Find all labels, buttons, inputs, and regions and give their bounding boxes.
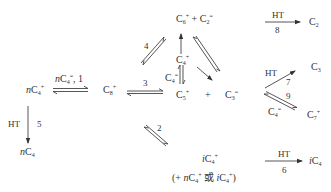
- species-C6-plus-C2: C6+ + C2=: [176, 14, 213, 24]
- species-C3-eq: C3=: [225, 90, 238, 100]
- species-C2: C2: [309, 17, 319, 27]
- species-iC4-plus: iC4+: [202, 154, 218, 164]
- plus-sign: +: [205, 90, 211, 100]
- reaction-7-label: 7: [286, 78, 291, 87]
- species-nC4: nC4: [20, 147, 35, 157]
- equilibrium-arrow-1: [53, 86, 88, 94]
- species-C3: C3: [311, 62, 321, 72]
- reaction-arrows: [0, 0, 331, 192]
- reaction-4-label: 4: [144, 42, 149, 51]
- species-iC4-note: (+ nC4+ 或 iC4+): [172, 173, 236, 183]
- reaction-5-label: 5: [37, 120, 42, 129]
- reaction-2-label: 2: [157, 124, 162, 133]
- reaction-8-label: 8: [275, 26, 280, 35]
- species-C5-plus: C5+: [176, 90, 189, 100]
- equilibrium-arrow-c4-c5: [178, 65, 185, 84]
- ht-label-6: HT: [278, 150, 290, 159]
- reaction-9-label: 9: [286, 92, 291, 101]
- equilibrium-arrow-c6-c3: [193, 36, 220, 72]
- ht-label-5: HT: [8, 120, 20, 129]
- species-C4-eq-lower: C4=: [268, 107, 281, 117]
- arrow-c4-to-c3: [197, 67, 212, 80]
- species-nC4-plus: nC4+: [26, 85, 44, 95]
- species-C7-plus: C7+: [307, 110, 320, 120]
- species-C4-plus-mid: C4+: [176, 55, 189, 65]
- equilibrium-arrow-3: [127, 89, 163, 96]
- reaction-3-label: 3: [143, 79, 148, 88]
- reaction-1-label: nC4=, 1: [55, 74, 83, 84]
- species-iC4: iC4: [309, 156, 321, 166]
- reaction-6-label: 6: [282, 166, 287, 175]
- equilibrium-arrow-2: [144, 125, 168, 146]
- ht-label-8: HT: [272, 11, 284, 20]
- ht-label-7: HT: [265, 69, 277, 78]
- species-C4-eq-side: C4=: [165, 73, 178, 83]
- species-C8-plus: C8+: [103, 85, 116, 95]
